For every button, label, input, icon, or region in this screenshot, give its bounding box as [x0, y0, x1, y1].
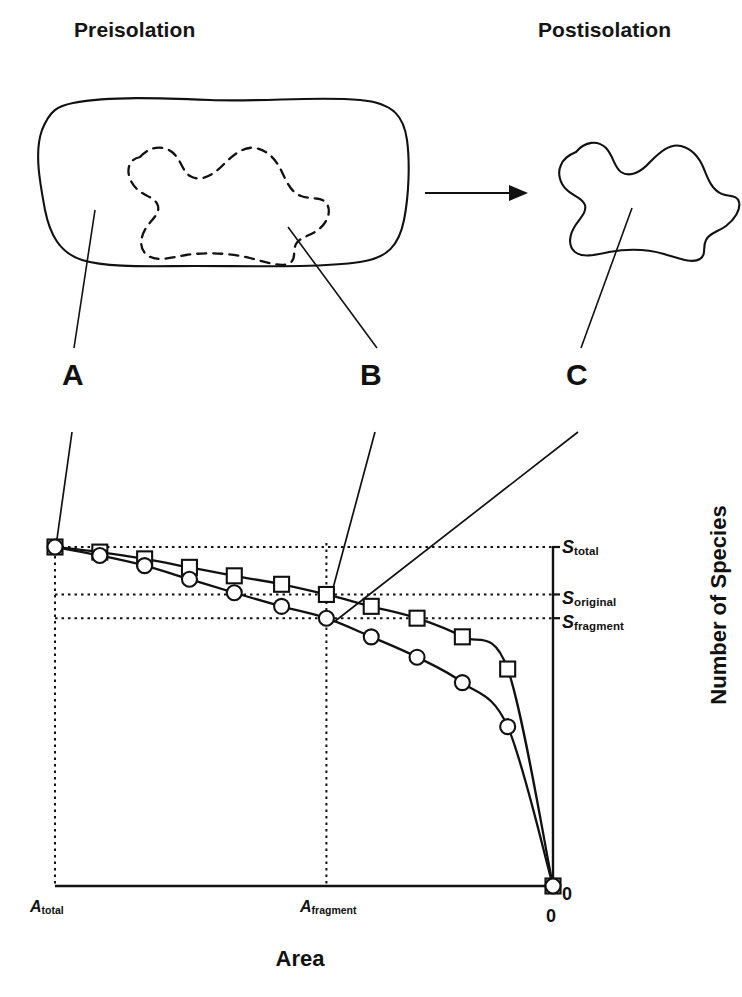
- axis-label-zero-area: 0: [546, 906, 556, 927]
- marker-circle-3: [182, 572, 197, 587]
- marker-square-9: [455, 629, 470, 644]
- axis-label-a-fragment: Afragment: [300, 898, 357, 916]
- axis-label-zero-species: 0: [562, 884, 572, 905]
- marker-square-5: [274, 577, 289, 592]
- marker-circle-1: [92, 548, 107, 563]
- a-total-base: A: [30, 898, 42, 915]
- axis-label-s-fragment: Sfragment: [562, 612, 624, 633]
- curve-fragment-curve: [55, 547, 553, 886]
- species-area-chart: [0, 0, 742, 997]
- marker-circle-8: [410, 650, 425, 665]
- y-axis-title: Number of Species: [706, 490, 732, 720]
- s-total-sub: total: [574, 545, 599, 557]
- axis-label-a-total: Atotal: [30, 898, 64, 916]
- marker-square-4: [227, 568, 242, 583]
- x-axis-title: Area: [0, 946, 600, 972]
- marker-circle-10: [500, 719, 515, 734]
- a-fragment-base: A: [300, 898, 312, 915]
- s-original-base: S: [562, 588, 574, 608]
- s-total-base: S: [562, 537, 574, 557]
- marker-circle-9: [455, 675, 470, 690]
- marker-square-7: [364, 599, 379, 614]
- marker-square-8: [410, 611, 425, 626]
- axis-label-s-total: Stotal: [562, 537, 599, 558]
- marker-circle-6: [319, 611, 334, 626]
- marker-square-10: [500, 662, 515, 677]
- s-original-sub: original: [574, 596, 616, 608]
- marker-circle-7: [364, 629, 379, 644]
- axis-label-s-original: Soriginal: [562, 588, 616, 609]
- a-fragment-sub: fragment: [312, 904, 357, 916]
- marker-circle-11: [546, 879, 561, 894]
- marker-square-6: [319, 587, 334, 602]
- species-area-fragmentation-figure: Preisolation Postisolation A B C Stotal …: [0, 0, 742, 997]
- marker-circle-2: [137, 558, 152, 573]
- marker-circle-0: [48, 540, 63, 555]
- s-fragment-base: S: [562, 612, 574, 632]
- marker-circle-4: [227, 585, 242, 600]
- a-total-sub: total: [42, 904, 64, 916]
- marker-circle-5: [274, 599, 289, 614]
- curve-original-habitat-curve: [55, 547, 553, 886]
- s-fragment-sub: fragment: [574, 620, 624, 632]
